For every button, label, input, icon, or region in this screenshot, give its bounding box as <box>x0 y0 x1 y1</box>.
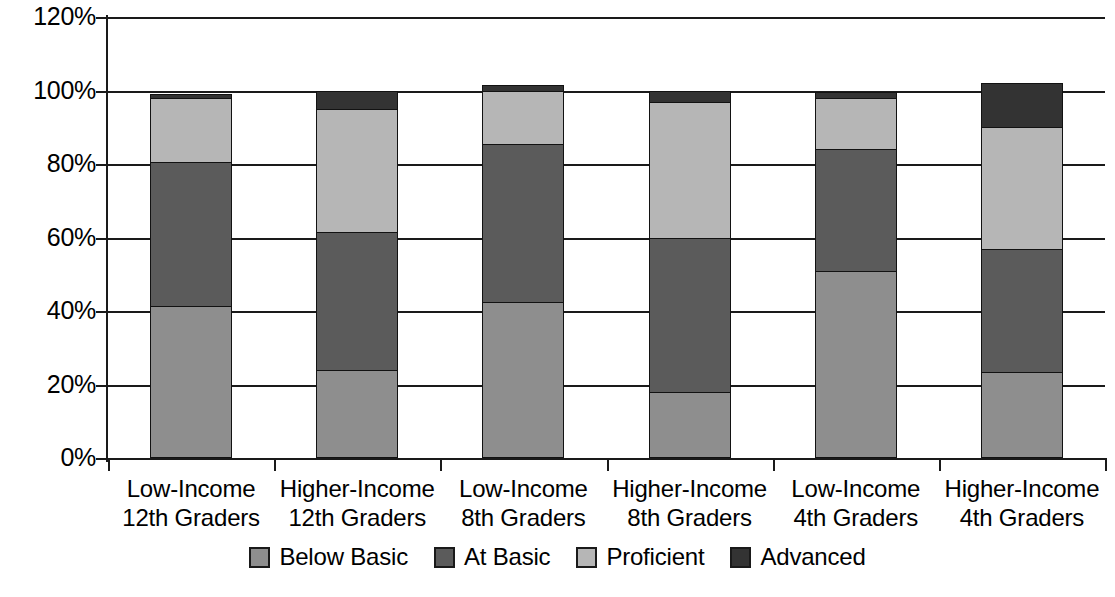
legend-label: At Basic <box>464 545 550 569</box>
bar-segment-advanced[interactable] <box>981 83 1063 127</box>
y-axis-tick-label: 60% <box>4 225 96 250</box>
x-axis-tick <box>274 458 276 471</box>
bar-group[interactable] <box>108 17 274 458</box>
x-axis-category-label: Low-Income4th Graders <box>773 474 939 532</box>
y-tick-mark <box>96 91 108 93</box>
y-tick-mark <box>96 238 108 240</box>
y-axis-tick-label: 20% <box>4 372 96 397</box>
bar-segment-at-basic[interactable] <box>482 144 564 302</box>
y-tick-mark <box>96 458 108 460</box>
stacked-bar[interactable] <box>981 83 1063 458</box>
y-tick-mark <box>96 311 108 313</box>
y-tick-mark <box>96 164 108 166</box>
x-axis-tick <box>1105 458 1107 471</box>
bar-group[interactable] <box>773 17 939 458</box>
legend-item-advanced[interactable]: Advanced <box>730 545 865 569</box>
bar-segment-below-basic[interactable] <box>316 370 398 458</box>
legend-label: Advanced <box>760 545 865 569</box>
y-axis-labels: 0%20%40%60%80%100%120% <box>0 0 96 597</box>
legend-label: Proficient <box>606 545 704 569</box>
x-label-line-1: Higher-Income <box>280 475 435 502</box>
bar-segment-at-basic[interactable] <box>815 149 897 270</box>
bar-segment-below-basic[interactable] <box>815 271 897 458</box>
bar-segment-proficient[interactable] <box>815 98 897 149</box>
x-axis-category-label: Higher-Income12th Graders <box>274 474 440 532</box>
bar-segment-advanced[interactable] <box>150 94 232 98</box>
bars-layer <box>108 17 1105 458</box>
x-label-line-2: 4th Graders <box>939 503 1105 532</box>
y-axis-tick-label: 100% <box>4 78 96 103</box>
x-label-line-2: 12th Graders <box>274 503 440 532</box>
x-axis-tick <box>773 458 775 471</box>
y-tick-mark <box>96 385 108 387</box>
y-axis-tick-label: 80% <box>4 151 96 176</box>
bar-segment-advanced[interactable] <box>649 91 731 102</box>
legend-item-at-basic[interactable]: At Basic <box>434 545 550 569</box>
stacked-bar[interactable] <box>316 91 398 459</box>
x-axis-tick <box>939 458 941 471</box>
x-axis-labels: Low-Income12th GradersHigher-Income12th … <box>108 474 1105 536</box>
x-axis-tick <box>440 458 442 471</box>
x-label-line-1: Higher-Income <box>945 475 1100 502</box>
y-axis-tick-label: 120% <box>4 4 96 29</box>
stacked-bar[interactable] <box>150 94 232 458</box>
x-axis-category-label: Low-Income8th Graders <box>440 474 606 532</box>
bar-group[interactable] <box>440 17 606 458</box>
bar-segment-proficient[interactable] <box>482 91 564 144</box>
bar-segment-proficient[interactable] <box>981 127 1063 248</box>
bar-group[interactable] <box>607 17 773 458</box>
bar-segment-proficient[interactable] <box>316 109 398 232</box>
bar-segment-at-basic[interactable] <box>150 162 232 305</box>
bar-segment-advanced[interactable] <box>482 85 564 91</box>
bar-segment-below-basic[interactable] <box>482 302 564 458</box>
bar-segment-at-basic[interactable] <box>316 232 398 370</box>
y-tick-mark <box>96 17 108 19</box>
legend-swatch-icon <box>249 547 270 568</box>
x-label-line-2: 12th Graders <box>108 503 274 532</box>
legend-swatch-icon <box>730 547 751 568</box>
bar-group[interactable] <box>939 17 1105 458</box>
legend-label: Below Basic <box>279 545 408 569</box>
x-label-line-1: Higher-Income <box>612 475 767 502</box>
bar-segment-below-basic[interactable] <box>981 372 1063 458</box>
x-axis-category-label: Higher-Income4th Graders <box>939 474 1105 532</box>
bar-group[interactable] <box>274 17 440 458</box>
bar-segment-at-basic[interactable] <box>981 249 1063 372</box>
stacked-bar[interactable] <box>482 85 564 458</box>
x-label-line-1: Low-Income <box>791 475 920 502</box>
x-label-line-2: 8th Graders <box>607 503 773 532</box>
bar-segment-below-basic[interactable] <box>150 306 232 459</box>
bar-segment-advanced[interactable] <box>316 91 398 109</box>
stacked-bar[interactable] <box>649 91 731 459</box>
x-label-line-1: Low-Income <box>127 475 256 502</box>
legend-item-below-basic[interactable]: Below Basic <box>249 545 408 569</box>
bar-segment-below-basic[interactable] <box>649 392 731 458</box>
stacked-bar[interactable] <box>815 92 897 458</box>
bar-segment-proficient[interactable] <box>150 98 232 162</box>
x-label-line-2: 4th Graders <box>773 503 939 532</box>
bar-segment-at-basic[interactable] <box>649 238 731 392</box>
y-axis-tick-label: 0% <box>4 445 96 470</box>
legend-item-proficient[interactable]: Proficient <box>576 545 704 569</box>
bar-segment-advanced[interactable] <box>815 92 897 98</box>
legend-swatch-icon <box>576 547 597 568</box>
legend-swatch-icon <box>434 547 455 568</box>
x-label-line-1: Low-Income <box>459 475 588 502</box>
x-axis-tick <box>108 458 110 471</box>
chart-legend: Below BasicAt BasicProficientAdvanced <box>0 545 1115 569</box>
x-label-line-2: 8th Graders <box>440 503 606 532</box>
bar-segment-proficient[interactable] <box>649 102 731 238</box>
x-axis-tick <box>607 458 609 471</box>
stacked-bar-chart: 0%20%40%60%80%100%120% Low-Income12th Gr… <box>0 0 1115 597</box>
x-axis-category-label: Low-Income12th Graders <box>108 474 274 532</box>
x-axis-category-label: Higher-Income8th Graders <box>607 474 773 532</box>
y-axis-tick-label: 40% <box>4 298 96 323</box>
